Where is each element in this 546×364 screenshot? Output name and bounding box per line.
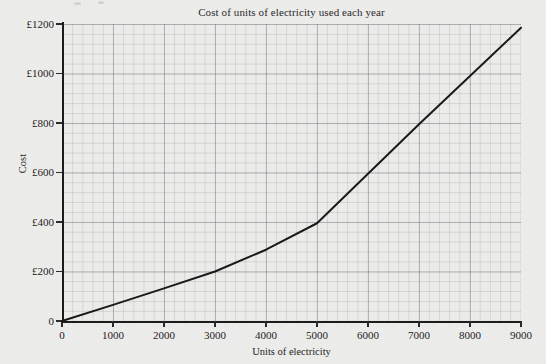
x-tick-mark bbox=[163, 321, 164, 327]
x-tick-mark bbox=[520, 321, 521, 327]
y-tick-mark bbox=[56, 221, 62, 222]
x-tick-mark bbox=[214, 321, 215, 327]
minor-gridlines bbox=[62, 24, 521, 321]
x-tick-label: 1000 bbox=[102, 330, 124, 341]
x-tick-mark bbox=[367, 321, 368, 327]
y-tick-label: 0 bbox=[49, 316, 55, 327]
major-gridlines bbox=[62, 24, 521, 321]
y-tick-mark bbox=[56, 73, 62, 74]
x-axis-line bbox=[61, 321, 522, 323]
y-tick-mark bbox=[56, 23, 62, 24]
x-tick-label: 5000 bbox=[306, 330, 328, 341]
y-tick-label: £800 bbox=[32, 118, 54, 129]
x-axis-title: Units of electricity bbox=[62, 346, 521, 357]
y-tick-label: £400 bbox=[32, 217, 54, 228]
plot-area bbox=[62, 24, 521, 321]
scan-artifact bbox=[74, 2, 81, 5]
x-tick-mark bbox=[469, 321, 470, 327]
x-tick-label: 2000 bbox=[153, 330, 175, 341]
x-tick-mark bbox=[316, 321, 317, 327]
x-tick-mark bbox=[61, 321, 62, 327]
x-tick-label: 3000 bbox=[204, 330, 226, 341]
x-tick-label: 6000 bbox=[357, 330, 379, 341]
x-tick-label: 9000 bbox=[510, 330, 532, 341]
x-tick-mark bbox=[112, 321, 113, 327]
y-tick-label: £600 bbox=[32, 167, 54, 178]
y-tick-mark bbox=[56, 271, 62, 272]
y-tick-mark bbox=[56, 122, 62, 123]
y-axis-line bbox=[62, 22, 64, 323]
y-tick-label: £1000 bbox=[27, 68, 55, 79]
chart-figure: Cost of units of electricity used each y… bbox=[0, 0, 546, 364]
y-tick-label: £200 bbox=[32, 266, 54, 277]
x-tick-mark bbox=[265, 321, 266, 327]
y-tick-mark bbox=[56, 172, 62, 173]
x-tick-label: 4000 bbox=[255, 330, 277, 341]
x-tick-label: 7000 bbox=[408, 330, 430, 341]
x-tick-label: 8000 bbox=[459, 330, 481, 341]
x-tick-label: 0 bbox=[59, 330, 65, 341]
scan-artifact bbox=[98, 1, 104, 4]
y-axis-title: Cost bbox=[17, 134, 28, 194]
y-tick-label: £1200 bbox=[27, 19, 55, 30]
x-tick-mark bbox=[418, 321, 419, 327]
chart-title: Cost of units of electricity used each y… bbox=[62, 6, 521, 18]
